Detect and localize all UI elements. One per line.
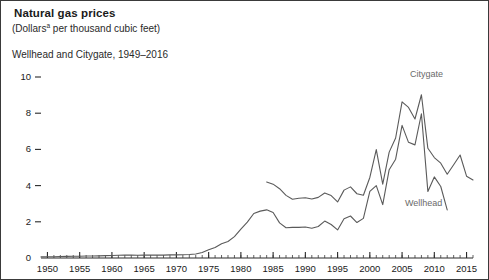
y-axis-tick-label: 4: [9, 180, 31, 191]
y-axis-tick-label: 8: [9, 107, 31, 118]
y-axis-tick-label: 0: [9, 252, 31, 263]
y-axis-tick-label: 10: [9, 71, 31, 82]
y-axis-tick-label: 6: [9, 143, 31, 154]
series-line-citygate: [267, 95, 473, 202]
chart-plot-area: [1, 1, 489, 280]
x-axis-tick-label: 2015: [447, 263, 487, 274]
axis-layer: [35, 77, 473, 258]
series-line-wellhead: [41, 114, 447, 257]
series-layer: [41, 95, 473, 257]
series-label-wellhead: Wellhead: [405, 198, 442, 208]
series-label-citygate: Citygate: [410, 69, 443, 79]
chart-figure: Natural gas prices (Dollarsa per thousan…: [0, 0, 489, 280]
y-axis-tick-label: 2: [9, 216, 31, 227]
